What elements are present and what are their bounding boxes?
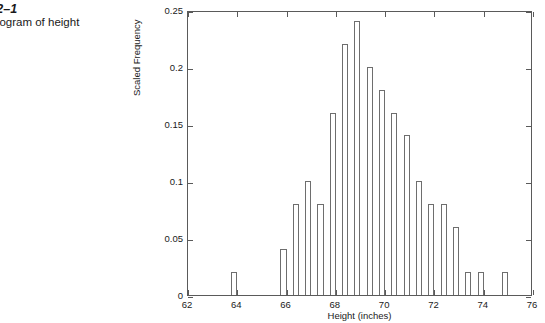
x-axis-tick-label: 72 [428,299,439,310]
histogram-bar [379,90,385,295]
y-axis-tick [188,69,193,70]
y-axis-tick-label: 0.1 [170,177,183,187]
x-axis-tick [188,290,189,295]
histogram-bar [404,135,410,295]
histogram-bar [330,113,336,295]
x-axis-tick [484,12,485,17]
histogram-bar [317,204,323,295]
x-axis-tick-label: 74 [477,299,488,310]
histogram-bar [367,67,373,295]
x-axis-tick [434,290,435,295]
bar-series [188,12,531,295]
histogram-bar [342,44,348,295]
histogram-bar [465,272,471,295]
y-axis-tick [526,126,531,127]
y-axis-tick-labels: 00.050.10.150.20.25 [150,11,183,296]
x-axis-tick-label: 64 [231,299,242,310]
y-axis-tick [526,183,531,184]
histogram-bar [453,227,459,295]
x-axis-tick [385,12,386,17]
y-axis-tick-label: 0.15 [165,120,184,130]
x-axis-tick-label: 68 [330,299,341,310]
histogram-bar [305,181,311,295]
y-axis-tick [188,183,193,184]
y-axis-tick [526,12,531,13]
histogram-bar [428,204,434,295]
x-axis-tick [287,290,288,295]
x-axis-tick [385,290,386,295]
x-axis-tick [434,12,435,17]
histogram-bar [354,21,360,295]
y-axis-title: Scaled Frequency [131,19,142,96]
histogram-figure: 00.050.10.150.20.25 6264666870727476 Sca… [0,0,545,323]
x-axis-tick-label: 70 [379,299,390,310]
y-axis-tick [188,297,193,298]
x-axis-tick [287,12,288,17]
y-axis-tick [526,297,531,298]
y-axis-tick [526,240,531,241]
y-axis-tick-label: 0.05 [165,234,184,244]
plot-area [187,11,532,296]
y-axis-tick [188,240,193,241]
histogram-bar [441,204,447,295]
histogram-bar [293,204,299,295]
x-axis-tick-label: 66 [280,299,291,310]
x-axis-tick-label: 62 [182,299,193,310]
x-axis-tick [336,12,337,17]
x-axis-tick [484,290,485,295]
x-axis-tick [237,12,238,17]
x-axis-tick [237,290,238,295]
histogram-bar [416,181,422,295]
y-axis-tick-label: 0.2 [170,63,183,73]
y-axis-tick-label: 0.25 [165,6,184,16]
x-axis-tick [336,290,337,295]
histogram-bar [391,113,397,295]
x-axis-tick-label: 76 [527,299,538,310]
x-axis-title: Height (inches) [187,310,532,321]
x-axis-tick [533,290,534,295]
y-axis-tick [188,126,193,127]
y-axis-tick [526,69,531,70]
histogram-bar [280,249,286,295]
x-axis-tick [188,12,189,17]
x-axis-tick [533,12,534,17]
histogram-bar [502,272,508,295]
